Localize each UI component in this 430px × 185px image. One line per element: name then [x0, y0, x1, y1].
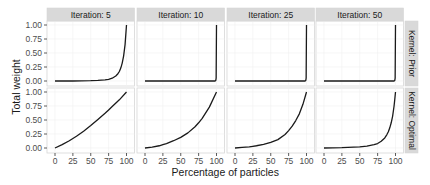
- x-tick-label: 75: [104, 156, 114, 166]
- x-tick-label: 0: [233, 156, 238, 166]
- x-tick-label: 100: [388, 156, 402, 166]
- panel-prior-iter-25: [227, 21, 315, 86]
- x-tick-label: 100: [209, 156, 223, 166]
- x-tick-label: 25: [337, 156, 347, 166]
- y-tick-label: 0.50: [25, 115, 42, 125]
- x-axis-col-2: 0255075100: [143, 153, 224, 166]
- row-strips: Kernel: PriorKernel: Optimal: [405, 21, 418, 153]
- y-axis-row-2: 0.000.250.500.751.00: [25, 87, 47, 153]
- x-tick-label: 50: [266, 156, 276, 166]
- x-tick-label: 0: [322, 156, 327, 166]
- y-tick-label: 0.25: [25, 62, 42, 72]
- column-strips: Iteration: 5Iteration: 10Iteration: 25It…: [47, 8, 404, 21]
- strip-label: Kernel: Optimal: [407, 91, 417, 150]
- panels: [47, 21, 404, 153]
- x-tick-label: 75: [373, 156, 383, 166]
- panel-optimal-iter-5: [47, 88, 135, 153]
- strip-label: Iteration: 10: [158, 10, 203, 20]
- x-axis-col-3: 0255075100: [233, 153, 314, 166]
- y-tick-label: 1.00: [25, 87, 42, 97]
- x-tick-label: 25: [158, 156, 168, 166]
- x-tick-label: 25: [248, 156, 258, 166]
- y-axes: 0.000.250.500.751.000.000.250.500.751.00: [25, 20, 47, 153]
- y-axis-title: Total weight: [10, 59, 22, 115]
- y-tick-label: 0.50: [25, 48, 42, 58]
- strip-iteration-25: Iteration: 25: [227, 8, 315, 21]
- strip-kernel-prior: Kernel: Prior: [405, 21, 418, 86]
- x-tick-label: 75: [194, 156, 204, 166]
- x-axis-col-4: 0255075100: [322, 153, 403, 166]
- x-tick-label: 100: [299, 156, 313, 166]
- panel-optimal-iter-10: [137, 88, 225, 153]
- y-tick-label: 0.75: [25, 101, 42, 111]
- strip-iteration-50: Iteration: 50: [316, 8, 404, 21]
- y-tick-label: 0.00: [25, 76, 42, 86]
- x-tick-label: 50: [86, 156, 96, 166]
- x-axis-title: Percentage of particles: [172, 166, 279, 178]
- x-tick-label: 0: [143, 156, 148, 166]
- strip-label: Kernel: Prior: [407, 30, 417, 77]
- strip-label: Iteration: 25: [248, 10, 293, 20]
- y-tick-label: 0.25: [25, 129, 42, 139]
- y-tick-label: 0.00: [25, 143, 42, 153]
- x-tick-label: 50: [355, 156, 365, 166]
- y-tick-label: 1.00: [25, 20, 42, 30]
- x-tick-label: 50: [176, 156, 186, 166]
- x-tick-label: 75: [284, 156, 294, 166]
- panel-optimal-iter-25: [227, 88, 315, 153]
- panel-prior-iter-10: [137, 21, 225, 86]
- x-tick-label: 100: [119, 156, 133, 166]
- x-tick-label: 0: [53, 156, 58, 166]
- strip-iteration-5: Iteration: 5: [47, 8, 135, 21]
- x-axis-col-1: 0255075100: [53, 153, 134, 166]
- strip-label: Iteration: 5: [71, 10, 111, 20]
- strip-label: Iteration: 50: [337, 10, 382, 20]
- y-axis-row-1: 0.000.250.500.751.00: [25, 20, 47, 86]
- x-axes: 0255075100025507510002550751000255075100: [53, 153, 403, 166]
- strip-iteration-10: Iteration: 10: [137, 8, 225, 21]
- faceted-line-chart: Iteration: 5Iteration: 10Iteration: 25It…: [0, 0, 430, 185]
- panel-prior-iter-50: [316, 21, 404, 86]
- y-tick-label: 0.75: [25, 34, 42, 44]
- strip-kernel-optimal: Kernel: Optimal: [405, 88, 418, 153]
- panel-prior-iter-5: [47, 21, 135, 86]
- panel-optimal-iter-50: [316, 88, 404, 153]
- x-tick-label: 25: [68, 156, 78, 166]
